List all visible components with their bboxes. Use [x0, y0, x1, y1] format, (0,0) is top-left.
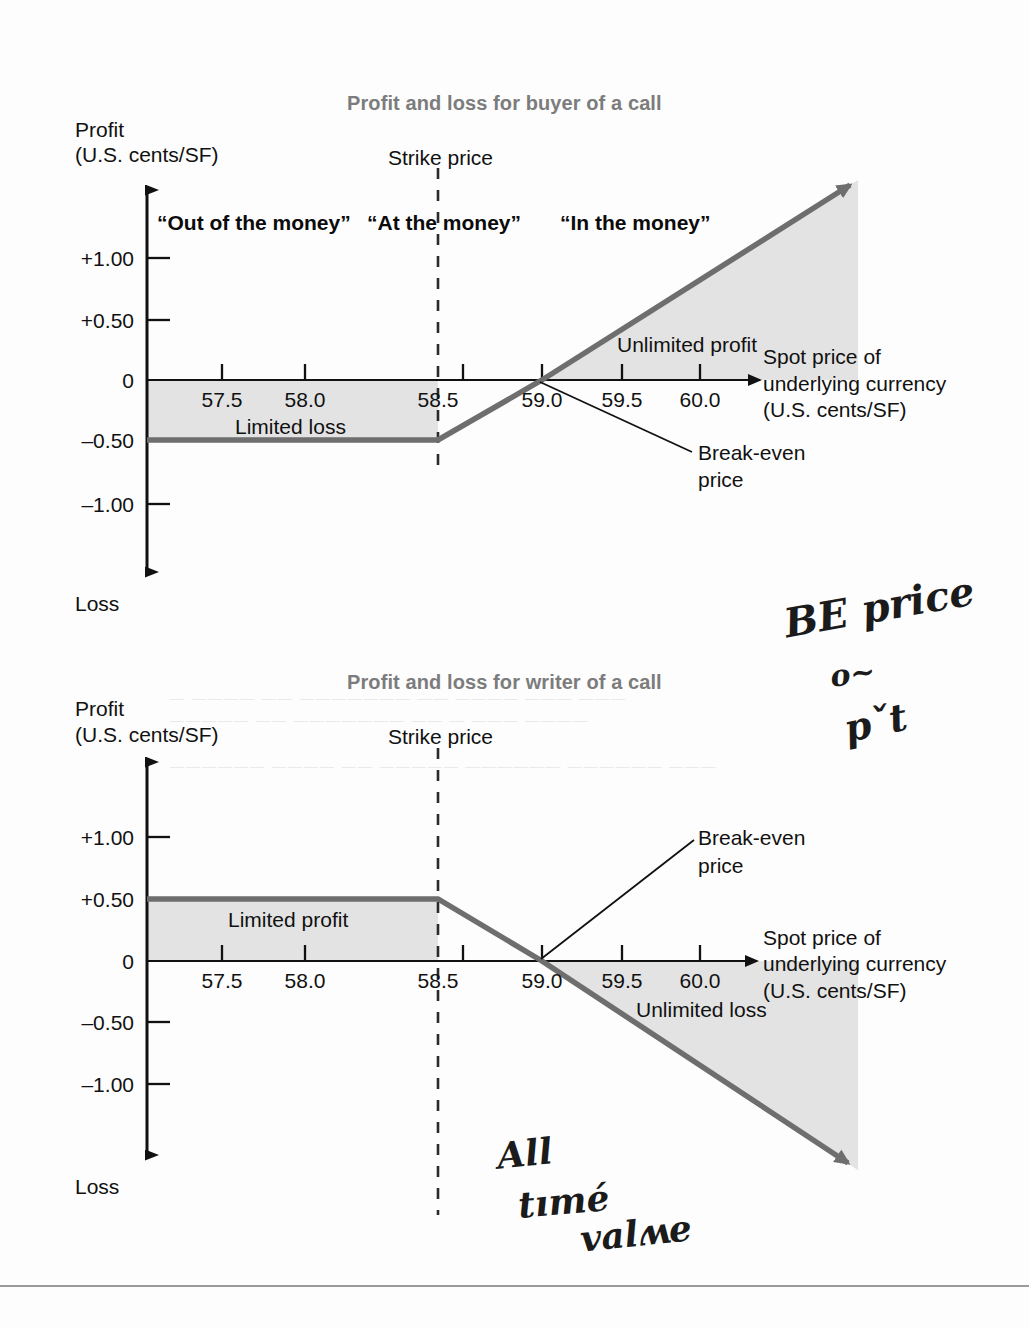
x-axis-label-line2-writer: underlying currency: [763, 952, 946, 977]
y-tick-label-1-00-buyer: +1.00: [60, 247, 134, 272]
break-even-callout-line2-writer: price: [698, 854, 744, 879]
x-tick-label-58-5-buyer: 58.5: [418, 388, 459, 413]
y-tick-label-neg-1-00-writer: –1.00: [60, 1073, 134, 1098]
footer-rule: [0, 1285, 1029, 1287]
moneyness-in-the-money: “In the money”: [560, 211, 711, 236]
y-tick-label-neg-0-50-writer: –0.50: [60, 1011, 134, 1036]
x-tick-label-58-5-writer: 58.5: [418, 969, 459, 994]
y-tick-label-neg-1-00-buyer: –1.00: [60, 493, 134, 518]
page-bleedthrough-ghost-3: —————— ———— —— ————— —————— —————— ———: [170, 758, 850, 774]
scanned-page: Profit and loss for buyer of a call Prof…: [0, 0, 1029, 1328]
chart-title-buyer: Profit and loss for buyer of a call: [347, 92, 662, 116]
x-tick-label-59-5-buyer: 59.5: [602, 388, 643, 413]
page-bleedthrough-ghost-2: ————— —— ——————— —— — ——— ————: [170, 712, 850, 728]
break-even-callout-line2-buyer: price: [698, 468, 744, 493]
y-axis-bottom-label-writer: Loss: [75, 1175, 119, 1200]
x-tick-label-59-0-writer: 59.0: [522, 969, 563, 994]
moneyness-at-the-money: “At the money”: [367, 211, 521, 236]
break-even-leader-line: [541, 840, 694, 959]
y-tick-label-0-50-writer: +0.50: [60, 888, 134, 913]
y-tick-label-0-buyer: 0: [60, 369, 134, 394]
moneyness-out-of-the-money: “Out of the money”: [157, 211, 351, 236]
x-tick-label-58-0-writer: 58.0: [285, 969, 326, 994]
x-tick-label-60-0-buyer: 60.0: [680, 388, 721, 413]
x-axis-label-line1-writer: Spot price of: [763, 926, 881, 951]
x-axis-label-line2-buyer: underlying currency: [763, 372, 946, 397]
x-axis-label-line1-buyer: Spot price of: [763, 345, 881, 370]
x-tick-label-59-0-buyer: 59.0: [522, 388, 563, 413]
x-tick-label-57-5-writer: 57.5: [202, 969, 243, 994]
y-tick-label-0-50-buyer: +0.50: [60, 309, 134, 334]
y-axis-bottom-label-buyer: Loss: [75, 592, 119, 617]
x-tick-label-60-0-writer: 60.0: [680, 969, 721, 994]
break-even-callout-line1-writer: Break-even: [698, 826, 805, 851]
y-tick-label-1-00-writer: +1.00: [60, 826, 134, 851]
x-tick-label-58-0-buyer: 58.0: [285, 388, 326, 413]
strike-price-label-buyer: Strike price: [388, 146, 493, 171]
figure-vector-layer: [0, 0, 1029, 1328]
page-bleedthrough-ghost: — ———— —— ——————— —— ———— ——— ———: [170, 690, 850, 706]
y-axis-label-line1-writer: Profit: [75, 697, 124, 722]
region-label-limited-loss: Limited loss: [235, 415, 346, 440]
x-tick-label-57-5-buyer: 57.5: [202, 388, 243, 413]
x-axis-label-line3-buyer: (U.S. cents/SF): [763, 398, 907, 423]
x-tick-label-59-5-writer: 59.5: [602, 969, 643, 994]
region-label-unlimited-loss: Unlimited loss: [636, 998, 767, 1023]
break-even-callout-line1-buyer: Break-even: [698, 441, 805, 466]
handwritten-all: All: [495, 1129, 554, 1177]
x-axis-label-line3-writer: (U.S. cents/SF): [763, 979, 907, 1004]
y-axis-label-line1-buyer: Profit: [75, 118, 124, 143]
region-label-unlimited-profit: Unlimited profit: [617, 333, 757, 358]
y-tick-label-neg-0-50-buyer: –0.50: [60, 429, 134, 454]
region-label-limited-profit: Limited profit: [228, 908, 348, 933]
handwritten-o-tilde: o~: [828, 653, 878, 694]
y-tick-label-0-writer: 0: [60, 950, 134, 975]
strike-price-label-writer: Strike price: [388, 725, 493, 750]
y-axis-label-line2-buyer: (U.S. cents/SF): [75, 143, 219, 168]
